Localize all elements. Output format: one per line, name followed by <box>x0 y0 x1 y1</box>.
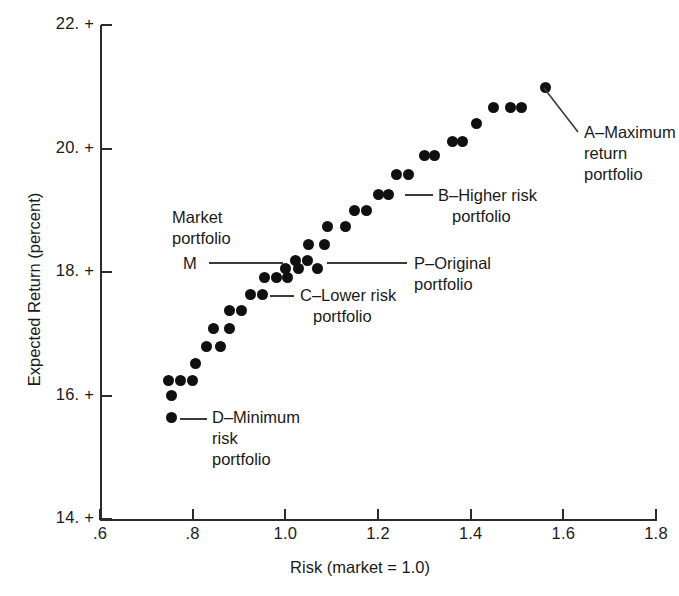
annotation-b-line1: B–Higher risk <box>438 185 537 206</box>
x-tick-1.8 <box>655 509 657 520</box>
y-axis-title: Expected Return (percent) <box>25 160 44 420</box>
data-point <box>322 221 333 232</box>
y-tick-22. <box>101 24 112 26</box>
scatter-chart: 14. +16. +18. +20. +22. + .6.81.01.21.41… <box>0 0 679 596</box>
annotation-market-line2: portfolio <box>172 228 231 249</box>
data-point <box>391 169 402 180</box>
data-point <box>166 390 177 401</box>
data-point <box>516 102 527 113</box>
data-point-B <box>373 189 384 200</box>
data-point <box>349 205 360 216</box>
annotation-a-line2: return <box>584 143 627 164</box>
leader-line-a <box>540 86 582 134</box>
data-point <box>245 289 256 300</box>
y-tick-label-16.: 16. + <box>36 385 94 404</box>
data-point <box>190 358 201 369</box>
data-point-M <box>280 263 291 274</box>
leader-line-b <box>405 194 433 196</box>
y-tick-20. <box>101 148 112 150</box>
leader-line-p <box>327 262 407 264</box>
data-point <box>224 323 235 334</box>
y-axis-line <box>100 25 102 521</box>
y-tick-16. <box>101 395 112 397</box>
data-point-D <box>166 412 177 423</box>
data-point <box>383 189 394 200</box>
x-tick-.6 <box>99 509 101 520</box>
y-tick-14. <box>101 518 112 520</box>
data-point <box>302 255 313 266</box>
x-axis-title: Risk (market = 1.0) <box>230 558 490 577</box>
x-tick-1.2 <box>377 509 379 520</box>
data-point <box>319 239 330 250</box>
data-point <box>257 289 268 300</box>
x-tick-label-.8: .8 <box>163 524 223 543</box>
data-point <box>208 323 219 334</box>
annotation-c-line2: portfolio <box>313 306 372 327</box>
annotation-p-line1: P–Original <box>414 253 491 274</box>
x-tick-label-.6: .6 <box>70 524 130 543</box>
x-tick-label-1.6: 1.6 <box>533 524 593 543</box>
annotation-d-line2: risk <box>212 428 238 449</box>
data-point <box>488 102 499 113</box>
x-tick-.8 <box>192 509 194 520</box>
x-tick-1.0 <box>284 509 286 520</box>
x-tick-label-1.4: 1.4 <box>441 524 501 543</box>
data-point <box>236 305 247 316</box>
annotation-c-line1: C–Lower risk <box>300 285 396 306</box>
y-tick-label-20.: 20. + <box>36 138 94 157</box>
annotation-a-line3: portfolio <box>584 164 643 185</box>
y-tick-label-18.: 18. + <box>36 261 94 280</box>
x-tick-label-1.0: 1.0 <box>255 524 315 543</box>
data-point-P <box>312 263 323 274</box>
x-tick-label-1.8: 1.8 <box>626 524 679 543</box>
annotation-market-marker: M <box>183 253 197 274</box>
data-point <box>505 102 516 113</box>
annotation-a-line1: A–Maximum <box>584 122 676 143</box>
data-point <box>293 263 304 274</box>
annotation-market-line1: Market <box>172 207 222 228</box>
data-point <box>340 221 351 232</box>
leader-line-c <box>270 295 294 297</box>
x-tick-1.4 <box>470 509 472 520</box>
x-tick-1.6 <box>562 509 564 520</box>
data-point <box>175 375 186 386</box>
leader-line-market <box>209 262 283 264</box>
data-point <box>187 375 198 386</box>
data-point <box>163 375 174 386</box>
data-point <box>471 118 482 129</box>
annotation-d-line1: D–Minimum <box>212 407 300 428</box>
annotation-p-line2: portfolio <box>414 274 473 295</box>
data-point <box>303 239 314 250</box>
leader-line-d <box>180 418 207 420</box>
data-point <box>361 205 372 216</box>
data-point <box>215 341 226 352</box>
data-point <box>457 136 468 147</box>
data-point <box>429 150 440 161</box>
annotation-b-line2: portfolio <box>452 206 511 227</box>
y-tick-18. <box>101 271 112 273</box>
data-point <box>271 272 282 283</box>
data-point <box>403 169 414 180</box>
x-tick-label-1.2: 1.2 <box>348 524 408 543</box>
y-tick-label-22.: 22. + <box>36 14 94 33</box>
data-point <box>447 136 458 147</box>
data-point <box>224 305 235 316</box>
data-point-C <box>259 272 270 283</box>
annotation-d-line3: portfolio <box>212 449 271 470</box>
data-point <box>201 341 212 352</box>
